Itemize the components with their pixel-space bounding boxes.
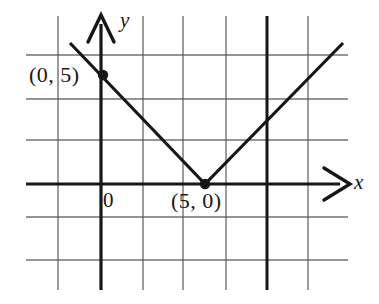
- origin-label: 0: [103, 190, 114, 211]
- point-marker-y-intercept: [98, 70, 108, 80]
- x-axis-label: x: [354, 172, 363, 193]
- y-axis-label: y: [120, 10, 129, 31]
- coordinate-plane-svg: [0, 0, 379, 304]
- point-label-y-intercept: (0, 5): [29, 64, 80, 86]
- function-curve: [70, 43, 343, 184]
- point-label-vertex: (5, 0): [171, 190, 222, 212]
- grid-vertical-lines: [58, 16, 308, 290]
- graph-figure: (0, 5) (5, 0) 0 y x: [0, 0, 379, 304]
